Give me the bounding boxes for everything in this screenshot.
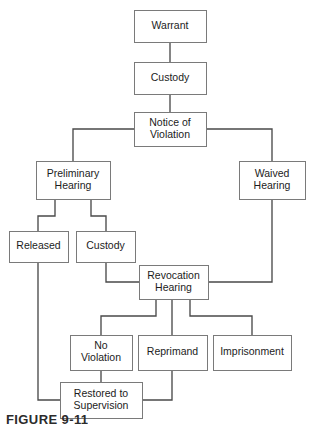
node-label-waived: Hearing [254, 179, 291, 191]
node-prelim[interactable]: PreliminaryHearing [37, 162, 111, 200]
connector-prelim-to-custody-low [91, 199, 106, 231]
node-label-revocation: Revocation [147, 269, 200, 281]
node-waived[interactable]: WaivedHearing [240, 162, 306, 200]
node-reprimand[interactable]: Reprimand [139, 336, 208, 371]
node-label-released: Released [16, 239, 61, 251]
connector-custody-low-to-revocation [106, 262, 139, 282]
node-label-custody_top: Custody [151, 71, 190, 83]
node-label-custody_low: Custody [86, 239, 125, 251]
connector-notice-to-waived [206, 129, 272, 161]
node-released[interactable]: Released [10, 232, 69, 263]
node-label-restored: Restored to [74, 387, 128, 399]
node-custody_low[interactable]: Custody [77, 232, 136, 263]
node-warrant[interactable]: Warrant [135, 11, 207, 43]
node-label-prelim: Preliminary [47, 167, 100, 179]
figure-caption: FIGURE 9-11 [6, 412, 88, 428]
node-custody_top[interactable]: Custody [135, 63, 207, 95]
node-notice[interactable]: Notice ofViolation [135, 113, 207, 147]
node-label-warrant: Warrant [152, 19, 189, 31]
connector-waived-to-revocation [208, 199, 272, 282]
flowchart-svg: WarrantCustodyNotice ofViolationPrelimin… [0, 0, 321, 428]
connector-revocation-to-imprisonment [190, 299, 252, 335]
connector-notice-to-prelim [73, 129, 134, 161]
node-label-reprimand: Reprimand [147, 345, 199, 357]
node-label-notice: Notice of [149, 116, 191, 128]
node-noviolation[interactable]: NoViolation [71, 336, 133, 371]
flowchart-canvas: WarrantCustodyNotice ofViolationPrelimin… [0, 0, 321, 428]
connector-revocation-to-noviolation [101, 299, 156, 335]
node-label-waived: Waived [255, 167, 290, 179]
node-imprisonment[interactable]: Imprisonment [214, 336, 292, 371]
connector-released-to-restored [38, 262, 60, 400]
node-layer: WarrantCustodyNotice ofViolationPrelimin… [10, 11, 306, 419]
node-label-revocation: Hearing [155, 281, 192, 293]
node-label-imprisonment: Imprisonment [220, 345, 284, 357]
node-label-noviolation: No [94, 339, 108, 351]
node-label-noviolation: Violation [81, 351, 121, 363]
connector-reprimand-to-restored [142, 370, 172, 400]
connector-prelim-to-released [38, 199, 55, 231]
node-label-prelim: Hearing [55, 179, 92, 191]
node-revocation[interactable]: RevocationHearing [140, 266, 209, 300]
node-label-notice: Violation [150, 128, 190, 140]
node-label-restored: Supervision [74, 399, 129, 411]
